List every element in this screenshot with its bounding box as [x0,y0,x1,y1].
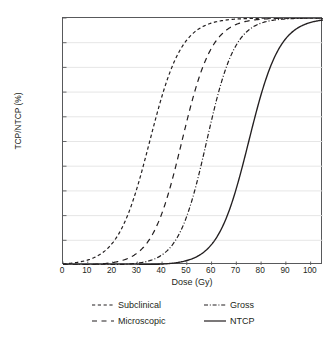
x-tick-label: 100 [295,266,325,275]
legend-item-gross: Gross [204,300,292,310]
legend-label: Subclinical [118,300,161,310]
legend-swatch-long-dash-icon [92,317,114,325]
curves-svg [63,18,323,265]
legend-swatch-solid-icon [204,317,226,325]
curve-ntcp [63,20,323,265]
legend-swatch-dash-dot-icon [204,301,226,309]
legend-label: NTCP [230,316,255,326]
legend-label: Microscopic [118,316,166,326]
legend-item-ntcp: NTCP [204,316,292,326]
tcp-ntcp-chart: 100 90 80 70 60 50 40 30 20 10 0 0 10 20… [0,0,335,342]
chart-legend: Subclinical Gross Microscopic NTCP [62,297,322,329]
legend-row: Microscopic NTCP [62,313,322,329]
legend-swatch-short-dash-icon [92,301,114,309]
legend-item-subclinical: Subclinical [92,300,204,310]
y-axis-title: TCP/NTCP (%) [13,51,23,191]
legend-label: Gross [230,300,254,310]
legend-row: Subclinical Gross [62,297,322,313]
legend-item-microscopic: Microscopic [92,316,204,326]
curve-subclinical [63,18,323,264]
x-axis-title: Dose (Gy) [62,277,322,287]
plot-area [62,17,322,264]
